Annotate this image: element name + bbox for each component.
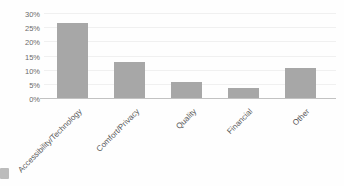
y-tick-label: 5% [0,81,40,90]
bar-quality [171,82,202,99]
gridline-30% [44,13,336,14]
bar-comfort-privacy [114,62,145,99]
x-category-label: Other [291,107,312,128]
scan-artifact [0,168,9,179]
plot-area [44,14,336,99]
x-category-label: Accessibility/Technology [17,107,84,174]
x-category-label: Comfort/Privacy [94,107,141,154]
bar-chart: 0%5%10%15%20%25%30% Accessibility/Techno… [0,0,344,186]
y-tick-label: 0% [0,95,40,104]
y-tick-label: 25% [0,24,40,33]
bar-accessibility-technology [57,23,88,100]
bar-other [285,68,316,99]
y-tick-label: 20% [0,38,40,47]
x-axis-labels: Accessibility/TechnologyComfort/PrivacyQ… [44,99,336,186]
bar-chart-screenshot: 0%5%10%15%20%25%30% Accessibility/Techno… [0,0,344,186]
y-axis: 0%5%10%15%20%25%30% [0,14,40,99]
y-tick-label: 15% [0,53,40,62]
y-tick-label: 30% [0,10,40,19]
y-tick-label: 10% [0,67,40,76]
x-category-label: Financial [226,107,255,136]
x-category-label: Quality [174,107,198,131]
